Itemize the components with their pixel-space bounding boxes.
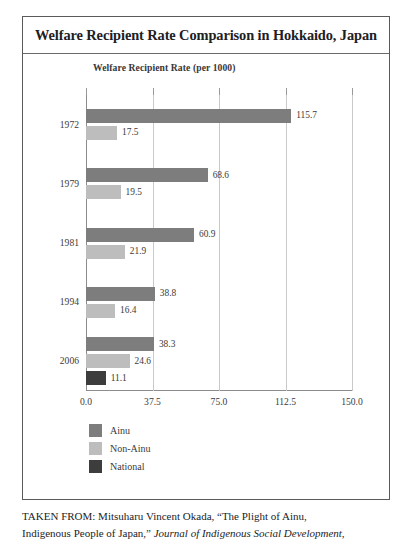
bar-value-label-2006-non-ainu: 24.6	[135, 357, 151, 366]
chart-subtitle: Welfare Recipient Rate (per 1000)	[93, 62, 236, 73]
x-axis-tick-labels: 0.037.575.0112.5150.0	[86, 396, 352, 410]
category-label-1972: 1972	[60, 119, 79, 130]
chart-legend: AinuNon-AinuNational	[89, 421, 151, 475]
category-label-1979: 1979	[60, 178, 79, 189]
x-tick-label-150.0: 150.0	[341, 396, 363, 407]
bar-value-label-2006-ainu: 38.3	[159, 340, 175, 349]
bar-value-label-2006-national: 11.1	[111, 374, 127, 383]
bar-group-1972: 1972115.717.5	[86, 109, 352, 140]
bar-1981-non-ainu	[86, 245, 125, 259]
bar-row-1979-non-ainu: 19.5	[86, 185, 142, 199]
x-tick-label-37.5: 37.5	[144, 396, 161, 407]
bar-value-label-1972-non-ainu: 17.5	[122, 128, 138, 137]
bar-row-2006-ainu: 38.3	[86, 337, 175, 351]
legend-item-ainu: Ainu	[89, 421, 151, 439]
title-divider	[23, 53, 389, 54]
legend-item-national: National	[89, 457, 151, 475]
bar-2006-ainu	[86, 337, 154, 351]
tick-mark-top-150.0	[352, 88, 353, 95]
bar-group-1994: 199438.816.4	[86, 287, 352, 318]
bar-1981-ainu	[86, 228, 194, 242]
bar-value-label-1972-ainu: 115.7	[296, 111, 317, 120]
bar-row-2006-non-ainu: 24.6	[86, 354, 151, 368]
category-label-1981: 1981	[60, 237, 79, 248]
bar-row-1994-ainu: 38.8	[86, 287, 176, 301]
bar-1979-ainu	[86, 168, 208, 182]
bar-1972-ainu	[86, 109, 291, 123]
caption-line-1: TAKEN FROM: Mitsuharu Vincent Okada, “Th…	[22, 510, 307, 522]
chart-plot-area: 1972115.717.5197968.619.5198160.921.9199…	[86, 95, 352, 391]
bar-2006-national	[86, 371, 106, 385]
bar-group-1981: 198160.921.9	[86, 228, 352, 259]
category-label-1994: 1994	[60, 296, 79, 307]
bar-row-1994-non-ainu: 16.4	[86, 304, 136, 318]
legend-swatch-ainu	[89, 424, 102, 437]
bar-value-label-1981-ainu: 60.9	[199, 230, 215, 239]
bar-value-label-1981-non-ainu: 21.9	[130, 247, 146, 256]
x-tick-label-112.5: 112.5	[275, 396, 296, 407]
figure-box: Welfare Recipient Rate Comparison in Hok…	[22, 16, 390, 500]
bar-1994-ainu	[86, 287, 155, 301]
legend-swatch-national	[89, 460, 102, 473]
legend-label-national: National	[110, 461, 144, 472]
bar-1994-non-ainu	[86, 304, 115, 318]
bar-2006-non-ainu	[86, 354, 130, 368]
bar-value-label-1994-non-ainu: 16.4	[120, 306, 136, 315]
bar-value-label-1994-ainu: 38.8	[160, 289, 176, 298]
legend-label-non-ainu: Non-Ainu	[110, 443, 151, 454]
source-caption: TAKEN FROM: Mitsuharu Vincent Okada, “Th…	[22, 508, 394, 542]
category-label-2006: 2006	[60, 355, 79, 366]
legend-label-ainu: Ainu	[110, 425, 130, 436]
legend-swatch-non-ainu	[89, 442, 102, 455]
caption-journal-title: Journal of Indigenous Social Development…	[154, 527, 345, 539]
tick-mark-top-37.5	[153, 88, 154, 95]
bar-row-1981-ainu: 60.9	[86, 228, 215, 242]
bar-value-label-1979-ainu: 68.6	[213, 171, 229, 180]
bar-1972-non-ainu	[86, 126, 117, 140]
bar-row-2006-national: 11.1	[86, 371, 127, 385]
bar-1979-non-ainu	[86, 185, 121, 199]
bar-row-1979-ainu: 68.6	[86, 168, 229, 182]
bar-group-2006: 200638.324.611.1	[86, 337, 352, 385]
bar-row-1972-ainu: 115.7	[86, 109, 317, 123]
bar-group-1979: 197968.619.5	[86, 168, 352, 199]
page-title: Welfare Recipient Rate Comparison in Hok…	[23, 27, 389, 44]
tick-mark-top-112.5	[286, 88, 287, 95]
tick-mark-top-75.0	[219, 88, 220, 95]
bar-row-1981-non-ainu: 21.9	[86, 245, 146, 259]
caption-line-2-prefix: Indigenous People of Japan,”	[22, 527, 154, 539]
figure-page: Welfare Recipient Rate Comparison in Hok…	[0, 0, 412, 549]
bar-value-label-1979-non-ainu: 19.5	[126, 188, 142, 197]
x-tick-label-0.0: 0.0	[80, 396, 92, 407]
bar-row-1972-non-ainu: 17.5	[86, 126, 138, 140]
gridline-150.0	[352, 95, 353, 391]
legend-item-non-ainu: Non-Ainu	[89, 439, 151, 457]
x-tick-label-75.0: 75.0	[211, 396, 228, 407]
tick-mark-top-0.0	[86, 88, 87, 95]
